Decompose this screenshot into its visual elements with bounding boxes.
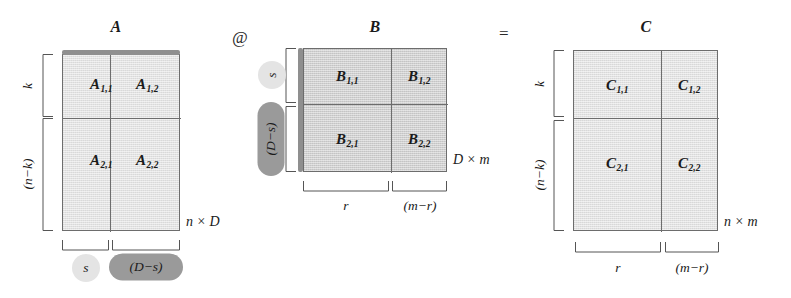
matrix-a-row-divider (63, 118, 181, 119)
matrix-c-column-divider (661, 51, 662, 232)
matrix-a-row-bracket-n-minus-k (40, 118, 54, 231)
block-name: B (408, 131, 418, 147)
block-name: A (136, 76, 146, 92)
matrix-b-title: B (370, 18, 381, 36)
block-sub: 2,2 (147, 160, 159, 170)
matrix-c-col-label-m-minus-r: (m−r) (675, 260, 708, 276)
block-sub: 1,2 (689, 85, 701, 95)
matrix-c-row-label-k: k (532, 81, 548, 87)
matrix-c-row-bracket-k (551, 50, 565, 117)
matrix-b-row-label-d-minus-s: (D−s) (263, 122, 279, 155)
matrix-b-col-label-m-minus-r: (m−r) (403, 198, 436, 214)
matrix-b-row-label-s: s (264, 72, 280, 77)
matrix-a-title: A (111, 18, 122, 36)
matrix-c-title: C (641, 18, 652, 36)
block-sub: 1,1 (347, 76, 359, 86)
matrix-c-block-2-2: C2,2 (678, 155, 700, 172)
matrix-b-block-1-1: B1,1 (336, 68, 358, 85)
block-name: A (136, 152, 146, 168)
matrix-a-row-label-n-minus-k: (n−k) (20, 159, 36, 190)
block-sub: 2,2 (419, 139, 431, 149)
block-name: C (678, 77, 688, 93)
matrix-a-block-2-1: A2,1 (90, 152, 112, 169)
matrix-a-size-label: n × D (186, 214, 220, 230)
matrix-b-block-2-1: B2,1 (336, 131, 358, 148)
matrix-c-row-divider (574, 118, 719, 119)
matrix-c-block-2-1: C2,1 (606, 155, 628, 172)
matrix-b-block-2-2: B2,2 (408, 131, 430, 148)
matrix-b-row-bracket-d-minus-s (283, 106, 297, 172)
block-sub: 1,2 (419, 76, 431, 86)
matrix-a-body (62, 54, 180, 231)
matrix-c-col-bracket-m-minus-r (665, 242, 719, 256)
matrix-b-left-accent-bar (298, 48, 303, 172)
matrix-a-col-bracket-s (62, 240, 109, 254)
matrix-c-row-label-n-minus-k: (n−k) (532, 160, 548, 191)
matrix-b-row-divider (304, 104, 448, 105)
block-name: B (336, 131, 346, 147)
equals-operator: = (499, 24, 509, 44)
matrix-c-col-label-r: r (615, 260, 620, 276)
matrix-a-block-1-1: A1,1 (90, 76, 112, 93)
matrix-a-row-label-k: k (20, 83, 36, 89)
matrix-b-size-label: D × m (453, 152, 490, 168)
block-name: B (408, 68, 418, 84)
matrix-multiplication-diagram: A A1,1 A1,2 A2,1 A2,2 k (n−k) s (D−s) n … (0, 0, 791, 298)
matrix-b-col-label-r: r (343, 198, 348, 214)
block-sub: 2,1 (347, 139, 359, 149)
block-sub: 2,2 (689, 163, 701, 173)
block-name: A (90, 152, 100, 168)
matrix-a-col-label-s: s (83, 260, 88, 276)
block-name: B (336, 68, 346, 84)
matrix-b-col-bracket-m-minus-r (392, 181, 447, 195)
matrix-b-block-1-2: B1,2 (408, 68, 430, 85)
block-name: C (678, 155, 688, 171)
matrix-c-col-bracket-r (575, 242, 661, 256)
matrix-a-col-label-d-minus-s: (D−s) (129, 259, 162, 275)
block-sub: 1,1 (101, 84, 113, 94)
matrix-a-row-bracket-k (40, 54, 54, 117)
block-name: C (606, 77, 616, 93)
block-sub: 1,2 (147, 84, 159, 94)
matrix-a-block-2-2: A2,2 (136, 152, 158, 169)
matrix-b-column-divider (391, 49, 392, 173)
matrix-a-block-1-2: A1,2 (136, 76, 158, 93)
matrix-a-top-accent-bar (62, 50, 180, 55)
matrix-b-col-bracket-r (303, 181, 389, 195)
block-name: A (90, 76, 100, 92)
block-sub: 1,1 (617, 85, 629, 95)
matrix-a-col-bracket-d-minus-s (112, 240, 180, 254)
block-sub: 2,1 (101, 160, 113, 170)
matrix-c-block-1-2: C1,2 (678, 77, 700, 94)
matmul-operator: @ (232, 28, 248, 48)
block-sub: 2,1 (617, 163, 629, 173)
matrix-c-row-bracket-n-minus-k (551, 120, 565, 231)
matrix-c-size-label: n × m (724, 214, 758, 230)
matrix-c-block-1-1: C1,1 (606, 77, 628, 94)
block-name: C (606, 155, 616, 171)
